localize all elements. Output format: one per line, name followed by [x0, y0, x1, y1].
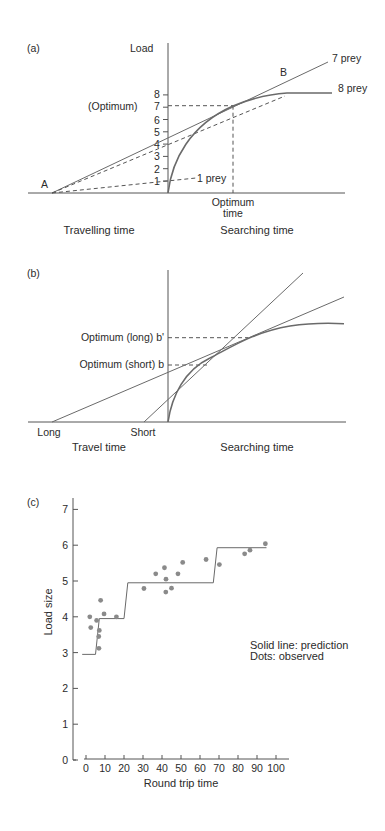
xtick-label: 20 — [118, 762, 130, 774]
xtick-label: 50 — [175, 762, 187, 774]
label-7-prey: 7 prey — [332, 52, 362, 64]
panel-a-yticks: 1 2 3 4 5 6 7 8 — [154, 88, 168, 187]
svg-text:2: 2 — [154, 163, 160, 175]
ytick-label: 3 — [62, 647, 68, 659]
optimum-short-label: Optimum (short) b — [79, 358, 164, 370]
ytick-label: 0 — [62, 754, 68, 766]
observed-dot — [242, 551, 247, 556]
observed-dot — [263, 541, 268, 546]
svg-text:5: 5 — [154, 126, 160, 138]
panel-a: (a) Load 1 2 3 4 5 6 7 8 (Optimum) — [27, 42, 368, 236]
observed-dot — [169, 586, 174, 591]
xtick-label: 60 — [194, 762, 206, 774]
observed-dot — [114, 614, 119, 619]
panel-a-ylabel: Load — [130, 42, 154, 54]
observed-dot — [96, 634, 101, 639]
point-b-label: B — [280, 66, 287, 78]
xtick-label: 30 — [137, 762, 149, 774]
observed-dot — [162, 565, 167, 570]
label-8-prey: 8 prey — [338, 82, 368, 94]
ytick-label: 4 — [62, 611, 68, 623]
panel-a-label: (a) — [27, 42, 40, 54]
line-1-prey — [52, 178, 196, 193]
xtick-label: 40 — [156, 762, 168, 774]
xtick-label: 0 — [83, 762, 89, 774]
observed-dot — [180, 560, 185, 565]
ytick-label: 7 — [62, 503, 68, 515]
xtick-label: 100 — [267, 762, 285, 774]
optimum-long-label: Optimum (long) b' — [81, 331, 164, 343]
panel-c-xticks: 0102030405060708090100 — [83, 755, 285, 774]
observed-dot — [217, 562, 222, 567]
panel-c-label: (c) — [27, 496, 39, 508]
panel-c-xlabel: Round trip time — [144, 777, 219, 789]
point-a-label: A — [41, 178, 48, 190]
short-label: Short — [130, 426, 155, 438]
svg-text:6: 6 — [154, 114, 160, 126]
prediction-step-line — [82, 548, 266, 655]
observed-dot — [153, 571, 158, 576]
ytick-label: 1 — [62, 718, 68, 730]
panel-c-ylabel: Load size — [42, 588, 54, 635]
panel-a-xlabel-right: Searching time — [220, 224, 293, 236]
panel-c: (c) 01234567 0102030405060708090100 Load… — [27, 496, 348, 789]
svg-text:8: 8 — [154, 88, 160, 100]
observed-dot — [142, 586, 147, 591]
svg-text:3: 3 — [154, 150, 160, 162]
legend-observed: Dots: observed — [250, 650, 324, 662]
observed-dot — [102, 612, 107, 617]
observed-dot — [97, 646, 102, 651]
panel-b-xlabel-left: Travel time — [72, 441, 126, 453]
long-label: Long — [37, 426, 61, 438]
panel-a-xlabel-left: Travelling time — [63, 224, 134, 236]
ytick-label: 5 — [62, 575, 68, 587]
xtick-label: 70 — [213, 762, 225, 774]
observed-dot — [94, 618, 99, 623]
optimum-time-label-2: time — [223, 207, 243, 219]
label-1-prey: 1 prey — [197, 172, 227, 184]
xtick-label: 10 — [99, 762, 111, 774]
panel-b: (b) Optimum (long) b' Optimum (short) b … — [27, 267, 346, 453]
observed-dot — [98, 598, 103, 603]
observed-dot — [204, 557, 209, 562]
observed-dot — [248, 548, 253, 553]
gain-curve-b — [168, 323, 344, 422]
svg-text:7: 7 — [154, 100, 160, 112]
xtick-label: 80 — [232, 762, 244, 774]
observed-dot — [88, 625, 93, 630]
svg-text:1: 1 — [154, 175, 160, 187]
observed-dots — [87, 541, 267, 650]
observed-dot — [176, 571, 181, 576]
observed-dot — [163, 590, 168, 595]
xtick-label: 90 — [251, 762, 263, 774]
panel-c-yticks: 01234567 — [62, 503, 78, 766]
panel-b-label: (b) — [27, 267, 40, 279]
ytick-label: 6 — [62, 539, 68, 551]
optimum-label: (Optimum) — [88, 100, 138, 112]
panel-b-xlabel-right: Searching time — [220, 441, 293, 453]
figure: (a) Load 1 2 3 4 5 6 7 8 (Optimum) — [0, 0, 385, 831]
line-7-prey — [52, 62, 328, 193]
observed-dot — [87, 614, 92, 619]
observed-dot — [164, 577, 169, 582]
ytick-label: 2 — [62, 682, 68, 694]
observed-dot — [97, 628, 102, 633]
